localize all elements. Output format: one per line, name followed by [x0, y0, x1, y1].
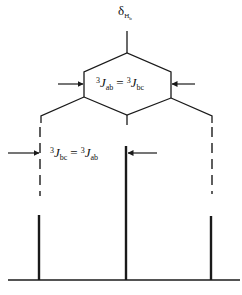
coupling-equality-label-bottom: 3Jbc=3Jab: [50, 146, 98, 163]
chemical-shift-label: δHb: [118, 4, 132, 22]
right-branch-line: [171, 98, 212, 123]
delta-subscript: Hb: [124, 12, 132, 20]
left-branch-line: [41, 97, 84, 123]
splitting-tree-diagram: [0, 0, 242, 295]
coupling-equality-label-top: 3Jab=3Jbc: [96, 76, 144, 93]
hexagon-lower-edges: [84, 97, 171, 115]
